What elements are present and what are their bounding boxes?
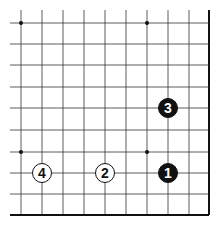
stone-white-4: 4 [33,164,52,183]
go-board-diagram: 1234 [0,0,221,233]
stone-black-1: 1 [159,164,178,183]
board-grid [10,10,209,215]
star-point [19,150,23,154]
star-point [19,21,23,25]
stone-number: 2 [101,165,109,181]
star-point [145,21,149,25]
stone-number: 1 [164,165,172,181]
stone-number: 3 [164,100,172,116]
star-point [145,150,149,154]
stone-black-3: 3 [159,99,178,118]
stone-number: 4 [38,165,46,181]
stone-white-2: 2 [96,164,115,183]
